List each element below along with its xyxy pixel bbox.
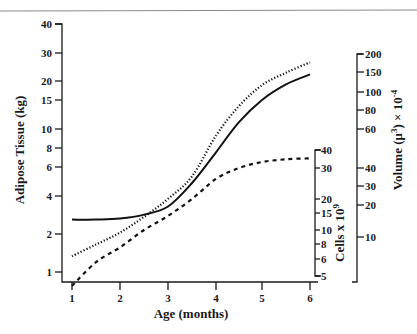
cells-tick-label: 8 bbox=[321, 238, 327, 250]
left-tick-label: 6 bbox=[47, 161, 53, 173]
cells-axis-title: Cells x 109 bbox=[331, 204, 347, 262]
volume-tick-label: 80 bbox=[365, 104, 377, 116]
solid-curve bbox=[72, 74, 310, 219]
left-axis: 124681015203040 Adipose Tissue (kg) bbox=[12, 18, 318, 282]
volume-axis-title: Volume (μ3) × 10-4 bbox=[389, 89, 405, 190]
curves bbox=[72, 62, 310, 285]
left-tick-label: 2 bbox=[47, 228, 53, 240]
adipose-growth-chart: 124681015203040 Adipose Tissue (kg) 1234… bbox=[0, 0, 417, 334]
volume-tick-label: 200 bbox=[365, 48, 382, 60]
left-tick-label: 30 bbox=[41, 47, 53, 59]
left-tick-label: 1 bbox=[47, 266, 53, 278]
left-tick-label: 40 bbox=[41, 18, 53, 30]
x-axis: 123456 Age (months) bbox=[69, 282, 313, 321]
left-tick-label: 8 bbox=[47, 142, 53, 154]
left-axis-title: Adipose Tissue (kg) bbox=[12, 96, 27, 205]
cells-tick-label: 20 bbox=[321, 193, 333, 205]
x-tick-label: 2 bbox=[117, 292, 123, 304]
x-tick-label: 1 bbox=[69, 292, 75, 304]
x-tick-label: 5 bbox=[259, 292, 265, 304]
volume-tick-label: 20 bbox=[365, 199, 377, 211]
cells-tick-label: 6 bbox=[321, 253, 327, 265]
x-tick-label: 3 bbox=[165, 292, 171, 304]
x-tick-label: 6 bbox=[307, 292, 313, 304]
left-tick-label: 4 bbox=[47, 190, 53, 202]
x-tick-label: 4 bbox=[213, 292, 219, 304]
left-tick-label: 20 bbox=[41, 75, 53, 87]
volume-tick-label: 40 bbox=[365, 162, 377, 174]
cells-tick-label: 10 bbox=[321, 224, 333, 236]
volume-tick-label: 10 bbox=[365, 231, 377, 243]
top-rule bbox=[0, 10, 417, 11]
cells-tick-label: 40 bbox=[321, 144, 333, 156]
volume-tick-label: 150 bbox=[365, 66, 382, 78]
cells-axis: 5681015203040 Cells x 109 bbox=[315, 144, 347, 282]
dashed-curve bbox=[72, 158, 310, 285]
volume-axis: 102030406080100150200 Volume (μ3) × 10-4 bbox=[352, 48, 405, 282]
cells-tick-label: 30 bbox=[321, 162, 333, 174]
volume-tick-label: 60 bbox=[365, 123, 377, 135]
volume-tick-label: 30 bbox=[365, 180, 377, 192]
left-tick-label: 15 bbox=[41, 94, 53, 106]
x-axis-title: Age (months) bbox=[154, 306, 229, 321]
left-tick-label: 10 bbox=[41, 123, 53, 135]
cells-tick-label: 5 bbox=[321, 270, 327, 282]
volume-tick-label: 100 bbox=[365, 86, 382, 98]
